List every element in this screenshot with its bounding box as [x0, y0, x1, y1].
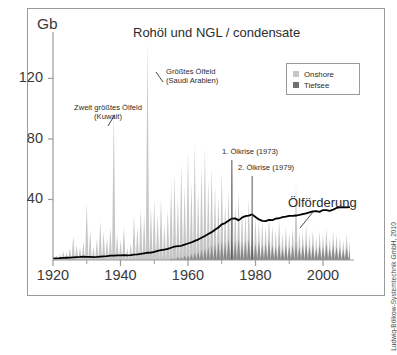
x-axis-tick-1960: 1960 — [160, 267, 216, 283]
legend-label-tiefsee: Tiefsee — [304, 81, 329, 90]
y-axis-unit-label: Gb — [37, 15, 58, 32]
y-axis-tick-80: 80 — [9, 130, 43, 146]
annotation-saudi-arabia: Größtes Ölfeld (Saudi Arabien) — [166, 68, 262, 85]
annotation-production-label: Ölförderung — [288, 196, 357, 211]
annotation-kuwait: Zweit größtes Ölfeld (Kuwait) — [56, 104, 160, 121]
x-axis-tick-1940: 1940 — [93, 267, 149, 283]
x-axis-tick-2000: 2000 — [295, 267, 351, 283]
x-axis-tick-1980: 1980 — [228, 267, 284, 283]
y-axis-tick-120: 120 — [9, 69, 43, 85]
annotation-oil-crisis-1973: 1. Ölkrise (1973) — [222, 148, 278, 157]
y-axis-tick-40: 40 — [9, 190, 43, 206]
chart-title: Rohöl und NGL / condensate — [133, 26, 300, 41]
annotation-oil-crisis-1979: 2. Ölkrise (1979) — [238, 164, 294, 173]
legend-label-onshore: Onshore — [304, 70, 334, 79]
credit-container: Ludwig-Bölkow-Systemtechnik GmbH, 2010 — [371, 105, 381, 275]
credit-text: Ludwig-Bölkow-Systemtechnik GmbH, 2010 — [390, 202, 397, 355]
x-axis-tick-1920: 1920 — [25, 267, 81, 283]
legend-swatch-tiefsee — [293, 82, 299, 88]
legend-swatch-onshore — [293, 71, 299, 77]
chart-legend: Onshore Tiefsee — [286, 63, 360, 95]
